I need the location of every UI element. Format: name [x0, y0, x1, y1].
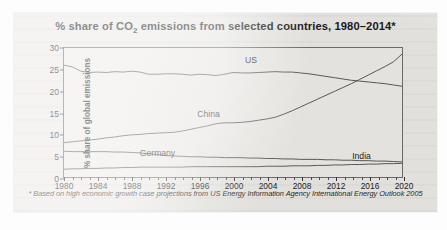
x-tick-mark-minor	[90, 177, 91, 180]
x-tick-mark-minor	[149, 177, 150, 180]
chart-title-suffix: emissions from selected countries, 1980–…	[138, 20, 396, 32]
y-tick-mark	[60, 48, 64, 49]
series-label-china: China	[197, 109, 219, 119]
x-tick-mark-minor	[124, 177, 125, 180]
y-tick-label: 20	[49, 87, 59, 97]
series-line-us	[64, 65, 402, 86]
x-tick-mark-minor	[353, 177, 354, 180]
series-line-china	[64, 54, 402, 143]
x-tick-mark-minor	[387, 177, 388, 180]
chart-footnote: * Based on high economic growth case pro…	[14, 189, 437, 198]
series-label-us: US	[245, 55, 257, 65]
y-tick-mark	[60, 157, 64, 158]
y-tick-mark	[60, 91, 64, 92]
series-line-india	[64, 163, 402, 169]
y-tick-label: 10	[49, 130, 59, 140]
y-tick-label: 30	[49, 43, 59, 53]
y-tick-label: 15	[49, 109, 59, 119]
y-tick-label: 25	[49, 65, 59, 75]
x-tick-mark-minor	[362, 177, 363, 180]
y-tick-mark	[60, 135, 64, 136]
screenshot-root: % share of CO2 emissions from selected c…	[0, 0, 447, 230]
x-tick-mark-minor	[396, 177, 397, 180]
plot-area: % share of global emissions 051015202530…	[63, 47, 403, 178]
chart-title: % share of CO2 emissions from selected c…	[14, 20, 437, 35]
x-tick-mark-minor	[141, 177, 142, 180]
y-tick-mark	[60, 113, 64, 114]
x-tick-mark-minor	[277, 177, 278, 180]
x-tick-mark-minor	[107, 177, 108, 180]
x-tick-mark-minor	[345, 177, 346, 180]
x-tick-mark-minor	[183, 177, 184, 180]
x-tick-mark-minor	[73, 177, 74, 180]
x-tick-mark-minor	[243, 177, 244, 180]
chart-title-prefix: % share of CO	[55, 20, 133, 32]
x-tick-mark-minor	[328, 177, 329, 180]
x-tick-mark-minor	[158, 177, 159, 180]
x-tick-mark-minor	[285, 177, 286, 180]
x-tick-mark-minor	[260, 177, 261, 180]
x-tick-mark-minor	[251, 177, 252, 180]
x-tick-mark-minor	[379, 177, 380, 180]
series-label-india: India	[352, 151, 371, 161]
y-axis-label: % share of global emissions	[83, 57, 92, 167]
chart-card: % share of CO2 emissions from selected c…	[14, 13, 437, 212]
x-tick-mark-minor	[115, 177, 116, 180]
x-tick-mark-minor	[217, 177, 218, 180]
x-tick-mark-minor	[319, 177, 320, 180]
x-tick-mark-minor	[294, 177, 295, 180]
x-tick-mark-minor	[81, 177, 82, 180]
x-tick-mark-minor	[311, 177, 312, 180]
y-tick-label: 5	[54, 152, 59, 162]
x-tick-mark-minor	[226, 177, 227, 180]
x-tick-mark-minor	[175, 177, 176, 180]
y-tick-mark	[60, 69, 64, 70]
x-tick-mark-minor	[192, 177, 193, 180]
x-tick-mark-minor	[209, 177, 210, 180]
series-label-germany: Germany	[140, 148, 175, 158]
